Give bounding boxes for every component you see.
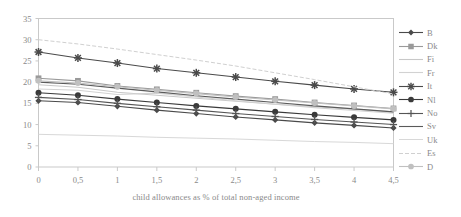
x-axis-ticks: 00,511,522,533,544,5 (36, 167, 398, 185)
legend-label: Es (424, 148, 436, 158)
legend-swatch-icon (398, 40, 424, 53)
data-point-marker (408, 164, 414, 170)
legend-swatch-icon (398, 147, 424, 160)
series-line (39, 93, 394, 120)
data-point-marker (312, 100, 318, 106)
x-axis-tick-label: 1 (115, 175, 119, 185)
plot-area: 05101520253035 00,511,522,533,544,5 (0, 0, 400, 217)
legend-item-uk[interactable]: Uk (398, 133, 460, 146)
x-axis-tick-label: 4 (352, 175, 357, 185)
data-point-marker (114, 84, 120, 90)
data-point-marker (408, 43, 414, 49)
x-axis-tick-label: 0 (36, 175, 40, 185)
legend-item-sv[interactable]: Sv (398, 120, 460, 133)
data-series (36, 75, 397, 111)
legend-item-fi[interactable]: Fi (398, 53, 460, 66)
data-point-marker (192, 69, 200, 77)
legend-item-d[interactable]: D (398, 160, 460, 173)
x-axis-tick-label: 3,5 (309, 175, 320, 185)
data-point-marker (408, 97, 414, 103)
data-point-marker (233, 94, 239, 100)
data-point-marker (350, 85, 358, 93)
legend-item-nl[interactable]: Nl (398, 93, 460, 106)
legend-item-it[interactable]: It (398, 80, 460, 93)
legend-item-fr[interactable]: Fr (398, 66, 460, 79)
x-axis-tick-label: 4,5 (388, 175, 399, 185)
legend-label: Sv (424, 121, 436, 131)
legend-swatch-icon (398, 120, 424, 133)
data-point-marker (153, 103, 160, 110)
y-axis-tick-label: 30 (23, 35, 32, 45)
legend-swatch-icon (398, 80, 424, 93)
data-point-marker (35, 48, 43, 56)
data-point-marker (35, 94, 42, 101)
legend-swatch-icon (398, 107, 424, 120)
legend-swatch-icon (398, 53, 424, 66)
data-point-marker (113, 59, 121, 67)
data-point-marker (272, 113, 279, 120)
data-point-marker (154, 87, 160, 93)
x-axis-tick-label: 0,5 (73, 175, 84, 185)
x-axis-title: child allowances as % of total non-aged … (38, 192, 394, 202)
data-point-marker (311, 81, 319, 89)
y-axis-tick-label: 10 (23, 120, 32, 130)
data-point-marker (351, 103, 357, 109)
data-series-group (35, 40, 398, 144)
legend-swatch-icon (398, 93, 424, 106)
data-point-marker (407, 82, 415, 90)
data-point-marker (232, 73, 240, 81)
data-point-marker (390, 88, 398, 96)
y-axis-tick-label: 20 (23, 77, 32, 87)
data-point-marker (232, 110, 239, 117)
legend-label: B (424, 28, 433, 38)
data-point-marker (75, 80, 81, 86)
data-point-marker (408, 30, 414, 36)
legend-label: Uk (424, 135, 437, 145)
data-point-marker (193, 107, 200, 114)
x-axis-tick-label: 2 (194, 175, 198, 185)
x-axis-tick-label: 3 (273, 175, 277, 185)
legend-swatch-icon (398, 66, 424, 79)
data-series (39, 134, 394, 143)
legend-label: Nl (424, 95, 436, 105)
chart-container: 05101520253035 00,511,522,533,544,5 chil… (0, 0, 461, 217)
legend-item-dk[interactable]: Dk (398, 39, 460, 52)
y-axis-tick-label: 15 (23, 98, 32, 108)
legend-label: Fr (424, 68, 435, 78)
data-point-marker (391, 106, 397, 112)
x-axis-tick-label: 1,5 (152, 175, 163, 185)
chart-canvas: 05101520253035 00,511,522,533,544,5 (0, 0, 400, 217)
legend-label: It (424, 81, 432, 91)
y-axis-tick-label: 35 (23, 14, 32, 24)
y-axis-tick-label: 0 (27, 162, 31, 172)
data-point-marker (350, 118, 357, 125)
data-series (36, 78, 397, 112)
y-axis-tick-label: 5 (27, 141, 31, 151)
legend-swatch-icon (398, 26, 424, 39)
y-axis-tick-label: 25 (23, 56, 32, 66)
plot-frame (39, 19, 394, 168)
data-point-marker (408, 110, 415, 117)
legend-item-no[interactable]: No (398, 106, 460, 119)
legend-label: Fi (424, 54, 434, 64)
data-point-marker (390, 121, 397, 128)
data-point-marker (36, 78, 42, 84)
data-series (35, 98, 396, 131)
legend-item-b[interactable]: B (398, 26, 460, 39)
data-point-marker (272, 97, 278, 103)
chart-legend: BDkFiFrItNlNoSvUkEsD (398, 26, 460, 173)
series-line (39, 52, 394, 92)
legend-label: D (424, 162, 433, 172)
series-line (39, 134, 394, 143)
data-point-marker (271, 77, 279, 85)
legend-label: No (424, 108, 437, 118)
series-line (39, 97, 394, 124)
data-point-marker (193, 91, 199, 97)
x-axis-tick-label: 2,5 (230, 175, 241, 185)
data-point-marker (74, 54, 82, 62)
legend-swatch-icon (398, 133, 424, 146)
legend-item-es[interactable]: Es (398, 147, 460, 160)
data-point-marker (311, 116, 318, 123)
data-point-marker (153, 65, 161, 73)
legend-label: Dk (424, 41, 437, 51)
